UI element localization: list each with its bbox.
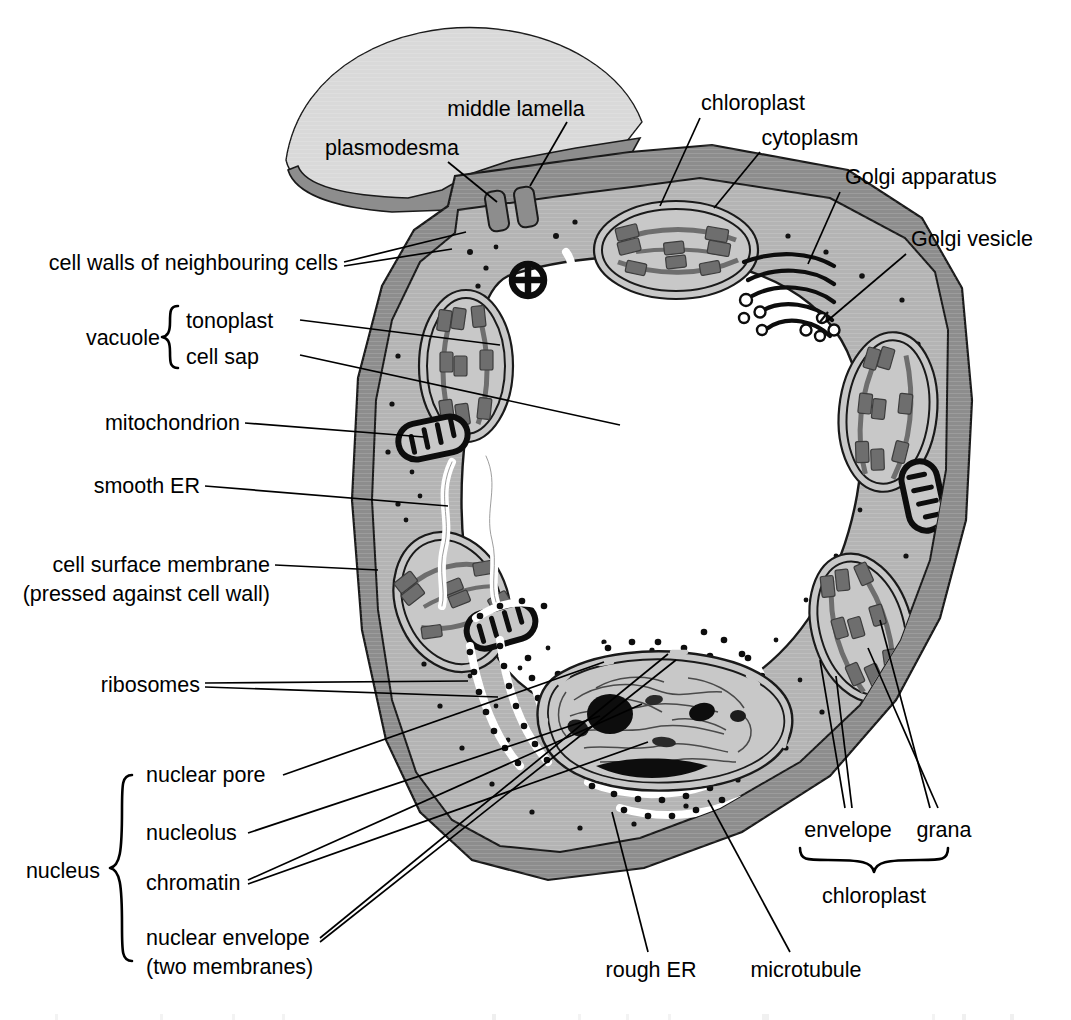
label-cytoplasm: cytoplasm: [762, 126, 859, 150]
label-smooth-er: smooth ER: [94, 474, 200, 498]
label-golgi-apparatus: Golgi apparatus: [845, 165, 997, 189]
chloroplast-brace: [800, 848, 948, 872]
label-cell-surface-membrane: cell surface membrane: [53, 553, 270, 577]
label-cell-sap: cell sap: [186, 345, 259, 369]
label-ribosomes: ribosomes: [101, 673, 200, 697]
vacuole-brace: [162, 306, 178, 368]
label-middle-lamella: middle lamella: [447, 97, 584, 121]
label-envelope: envelope: [804, 818, 891, 842]
chromatin-dense-c: [730, 710, 746, 722]
chloroplast-top: [594, 201, 758, 299]
label-nuclear-envelope-note: (two membranes): [146, 955, 313, 979]
label-nucleus: nucleus: [26, 859, 100, 883]
label-mitochondrion: mitochondrion: [105, 411, 240, 435]
label-vacuole: vacuole: [86, 326, 160, 350]
label-cell-surface-membrane-note: (pressed against cell wall): [23, 582, 270, 606]
cropped-caption-row: [55, 1014, 1014, 1020]
plant-cell-diagram: middle lamella plasmodesma chloroplast c…: [0, 0, 1071, 1020]
nucleus-brace: [110, 775, 132, 961]
microtubule-cross-section: [512, 264, 544, 296]
label-grana: grana: [917, 818, 972, 842]
label-microtubule: microtubule: [750, 958, 861, 982]
label-rough-er: rough ER: [606, 958, 697, 982]
label-chromatin: chromatin: [146, 871, 240, 895]
label-nuclear-envelope: nuclear envelope: [146, 926, 310, 950]
label-plasmodesma: plasmodesma: [325, 136, 459, 160]
label-tonoplast: tonoplast: [186, 309, 273, 333]
label-chloroplast-top: chloroplast: [701, 91, 805, 115]
label-chloroplast-bracket: chloroplast: [822, 884, 926, 908]
label-golgi-vesicle: Golgi vesicle: [911, 227, 1033, 251]
label-nucleolus: nucleolus: [146, 821, 237, 845]
label-cell-walls-neighbouring: cell walls of neighbouring cells: [49, 251, 338, 275]
label-nuclear-pore: nuclear pore: [146, 763, 266, 787]
diagram-canvas: middle lamella plasmodesma chloroplast c…: [0, 0, 1071, 1020]
